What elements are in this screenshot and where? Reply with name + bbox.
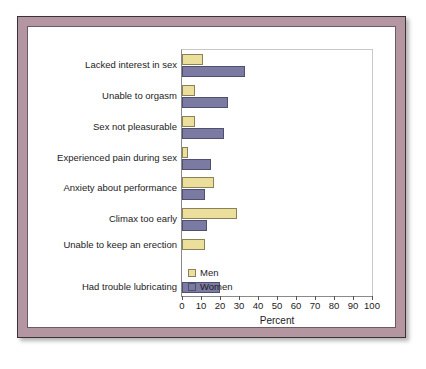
bar-women: [182, 66, 245, 77]
x-tick-label: 90: [348, 301, 359, 311]
bar-men: [182, 85, 195, 96]
bar-row: Climax too early: [182, 204, 372, 235]
bar-men: [182, 54, 203, 65]
category-label: Unable to keep an erection: [63, 240, 177, 250]
chart-plot-area: Lacked interest in sexUnable to orgasmSe…: [181, 49, 373, 297]
men-swatch-icon: [188, 269, 196, 277]
x-tick-label: 30: [234, 301, 245, 311]
bar-row: Anxiety about performance: [182, 173, 372, 204]
category-label: Anxiety about performance: [63, 183, 177, 193]
legend-label-men: Men: [200, 268, 218, 278]
category-label: Experienced pain during sex: [57, 153, 177, 163]
bar-row: Unable to keep an erection: [182, 235, 372, 266]
figure-inner-panel: Lacked interest in sexUnable to orgasmSe…: [27, 26, 396, 328]
legend-label-women: Women: [200, 282, 233, 292]
bar-women: [182, 189, 205, 200]
category-label: Unable to orgasm: [102, 91, 177, 101]
bar-row: Unable to orgasm: [182, 81, 372, 112]
x-tick-label: 70: [310, 301, 321, 311]
x-tick-label: 40: [253, 301, 264, 311]
bar-women: [182, 97, 228, 108]
x-tick-label: 80: [329, 301, 340, 311]
category-label: Sex not pleasurable: [93, 122, 177, 132]
x-tick-label: 20: [215, 301, 226, 311]
x-tick-label: 0: [179, 301, 184, 311]
x-tick-label: 50: [272, 301, 283, 311]
bar-women: [182, 220, 207, 231]
category-label: Climax too early: [109, 214, 177, 224]
bar-women: [182, 159, 211, 170]
bar-men: [182, 147, 188, 158]
x-tick-label: 10: [196, 301, 207, 311]
bar-row: Lacked interest in sex: [182, 50, 372, 81]
bar-men: [182, 208, 237, 219]
x-tick-label: 60: [291, 301, 302, 311]
bar-row: Sex not pleasurable: [182, 112, 372, 143]
chart-legend: Men Women: [188, 267, 233, 295]
x-axis-title: Percent: [182, 315, 372, 326]
legend-item-men: Men: [188, 267, 233, 279]
bar-men: [182, 116, 195, 127]
bar-row: Experienced pain during sex: [182, 142, 372, 173]
bar-men: [182, 177, 214, 188]
bar-women: [182, 128, 224, 139]
legend-item-women: Women: [188, 281, 233, 293]
category-label: Lacked interest in sex: [85, 60, 177, 70]
bar-men: [182, 239, 205, 250]
x-tick-label: 100: [364, 301, 380, 311]
women-swatch-icon: [188, 283, 196, 291]
category-label: Had trouble lubricating: [82, 282, 177, 292]
figure-frame: Lacked interest in sexUnable to orgasmSe…: [17, 16, 406, 338]
